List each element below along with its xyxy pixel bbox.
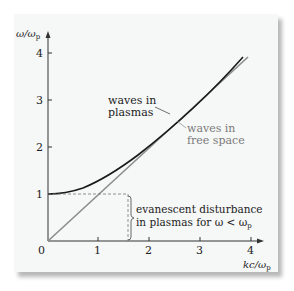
- brace-icon: [128, 196, 134, 240]
- label-free-line2: free space: [187, 134, 245, 147]
- y-tick-1: 1: [36, 188, 43, 201]
- x-tick-3: 3: [196, 244, 203, 257]
- x-tick-1: 1: [94, 244, 101, 257]
- y-axis-arrow-icon: [46, 31, 51, 38]
- x-ticks: [98, 237, 251, 241]
- x-tick-4: 4: [247, 244, 254, 257]
- y-tick-2: 2: [36, 141, 43, 154]
- label-plasma-line2: plasmas: [108, 106, 154, 119]
- evanescent-box: [48, 194, 128, 241]
- y-tick-4: 4: [36, 47, 43, 60]
- y-ticks: [48, 53, 52, 194]
- x-tick-0: 0: [38, 244, 45, 257]
- plasma-leader: [155, 107, 170, 114]
- free-leader: [177, 121, 186, 128]
- x-axis-label: kc/ωp: [243, 259, 271, 272]
- y-axis-label: ω/ωp: [16, 28, 41, 41]
- label-evanescent-line1: evanescent disturbance: [136, 203, 263, 215]
- y-tick-3: 3: [36, 94, 43, 107]
- x-axis-arrow-icon: [257, 239, 264, 244]
- label-evanescent-line2: in plasmas for ω < ωp: [136, 216, 252, 230]
- x-tick-2: 2: [145, 244, 152, 257]
- dispersion-plot: 1 2 3 4 0 1 2 3 4 ω/ωp kc/ωp waves in pl…: [0, 0, 294, 291]
